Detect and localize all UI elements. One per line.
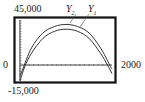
curve-y1 — [20, 29, 112, 81]
ymin-label: -15,000 — [8, 86, 39, 96]
xmax-label: 2000 — [121, 60, 141, 70]
legend-y2: Y2 — [66, 4, 75, 18]
window-frame — [15, 18, 116, 83]
ymax-label: 45,000 — [14, 4, 42, 14]
xmin-label: 0 — [3, 60, 8, 70]
legend-y1: Y1 — [88, 4, 97, 18]
